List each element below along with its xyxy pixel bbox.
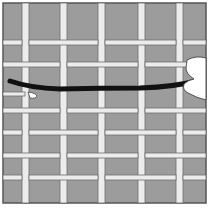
- loose-strip-end: [3, 92, 25, 96]
- weaving-illustration: [0, 0, 209, 209]
